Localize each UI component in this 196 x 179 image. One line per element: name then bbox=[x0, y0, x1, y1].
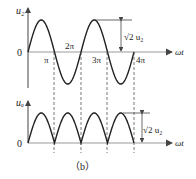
tick-4pi: 4π bbox=[136, 55, 146, 65]
top-x-label: ωt bbox=[175, 47, 184, 57]
top-y-label: u₂ bbox=[16, 5, 25, 16]
bottom-y-label: uₒ bbox=[16, 97, 24, 108]
dashed-guides bbox=[54, 52, 134, 153]
bottom-origin-label: 0 bbox=[17, 138, 22, 149]
tick-3pi: 3π bbox=[92, 55, 102, 65]
bottom-amplitude-label: √2 u₂ bbox=[143, 125, 162, 135]
waveform-svg: u₂ ωt 0 π 2π 3π 4π √2 u₂ uₒ ωt 0 √2 u₂ （… bbox=[0, 0, 196, 179]
figure-caption: （b） bbox=[70, 161, 95, 172]
rectifier-waveform-diagram: u₂ ωt 0 π 2π 3π 4π √2 u₂ uₒ ωt 0 √2 u₂ （… bbox=[0, 0, 196, 179]
bottom-x-label: ωt bbox=[175, 138, 184, 148]
top-origin-label: 0 bbox=[17, 47, 22, 58]
top-amplitude-label: √2 u₂ bbox=[124, 32, 143, 42]
bottom-plot: uₒ ωt 0 √2 u₂ bbox=[16, 97, 184, 149]
top-plot: u₂ ωt 0 π 2π 3π 4π √2 u₂ bbox=[16, 5, 184, 88]
tick-2pi: 2π bbox=[65, 41, 75, 51]
tick-pi: π bbox=[44, 55, 49, 65]
